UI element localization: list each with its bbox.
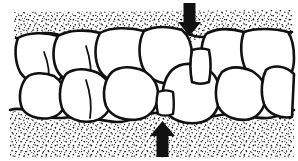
lower-interdental-space — [157, 91, 174, 116]
lower-tooth-6 — [262, 67, 294, 118]
lower-tooth-3 — [104, 67, 158, 119]
dental-occlusion-figure — [0, 0, 298, 161]
interdental-space — [191, 49, 211, 84]
lower-tooth-5 — [216, 67, 266, 119]
